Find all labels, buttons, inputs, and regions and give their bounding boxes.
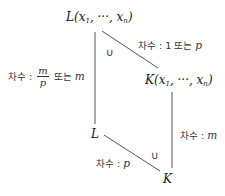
label-top-right-var: p [195,39,202,51]
label-left-bottom: 차수 : p [96,158,130,169]
label-top-left-prefix: 차수 : [8,71,35,82]
subset-symbol-lower: ∪ [151,150,159,161]
fraction-m-over-p: mp [37,65,48,88]
label-top-left-middle: 또는 [51,71,75,82]
label-left-bottom-prefix: 차수 : [96,158,123,169]
label-right-bottom-var: m [207,129,217,141]
fraction-numerator: m [37,65,48,77]
subset-symbol-upper: ∪ [106,47,114,58]
label-right-bottom-prefix: 차수 : [180,130,207,141]
node-top-mid: , ···, x [90,10,123,24]
node-mid-left: L [91,128,99,140]
label-left-bottom-var: p [123,157,130,169]
node-right-base: K(x [145,73,165,87]
label-top-right: 차수 : 1 또는 p [138,40,202,51]
label-top-left-var: m [75,70,85,82]
node-bottom: K [163,173,172,185]
node-right-end: ) [208,73,213,87]
node-top-field: L(x1, ···, xn) [66,11,133,25]
node-right-field: K(x1, ···, xn) [145,74,213,88]
node-top-base: L(x [66,10,85,24]
fraction-denominator: p [40,77,46,88]
label-top-right-prefix: 차수 : 1 또는 [138,40,195,51]
label-top-left: 차수 : mp 또는 m [8,65,85,88]
node-top-end: ) [128,10,133,24]
label-right-bottom: 차수 : m [180,130,217,141]
node-right-mid: , ···, x [170,73,203,87]
